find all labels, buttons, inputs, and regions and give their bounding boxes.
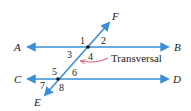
label-a: A <box>13 41 21 53</box>
callout-arrow-icon <box>81 58 108 62</box>
intersection-point-ab <box>86 45 90 49</box>
label-f: F <box>111 10 119 22</box>
transversal-line-ef <box>45 23 109 95</box>
angle-5: 5 <box>52 66 57 77</box>
angle-7: 7 <box>40 80 45 91</box>
label-e: E <box>33 96 41 108</box>
intersection-point-cd <box>56 77 60 81</box>
label-c: C <box>14 73 22 85</box>
label-b: B <box>174 41 181 53</box>
transversal-callout-label: Transversal <box>111 52 162 64</box>
label-d: D <box>172 73 181 85</box>
angle-1: 1 <box>80 35 85 46</box>
angle-4: 4 <box>88 51 93 62</box>
transversal-diagram: A B C D E F 1 2 3 4 5 6 7 8 Transversal <box>0 0 191 111</box>
angle-8: 8 <box>59 82 64 93</box>
angle-2: 2 <box>101 35 106 46</box>
angle-6: 6 <box>72 67 77 78</box>
angle-3: 3 <box>67 49 72 60</box>
